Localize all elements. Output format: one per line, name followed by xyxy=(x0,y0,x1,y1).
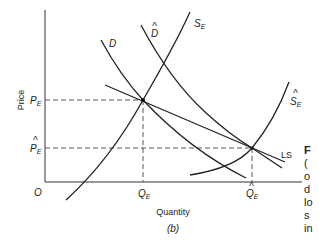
demand-label-d-hat: D xyxy=(151,28,158,39)
supply-curve-se xyxy=(66,12,190,200)
long-run-supply-ls xyxy=(105,85,285,162)
equilibrium-point-2 xyxy=(250,146,253,149)
pe-label: PE xyxy=(30,95,42,107)
economics-diagram: Price PE ^ PE O QE ^ QE Quantity (b) D ^… xyxy=(0,0,319,244)
qe-label: QE xyxy=(138,188,151,200)
supply-label-se-hat: SE xyxy=(290,96,302,108)
side-caption-fragment-4: lo xyxy=(304,196,313,209)
side-caption-fragment-0: F xyxy=(304,144,311,157)
figure-caption: (b) xyxy=(167,223,179,234)
equilibrium-point-1 xyxy=(141,98,145,102)
demand-label-d: D xyxy=(109,38,116,49)
demand-curve-d-hat xyxy=(141,25,282,168)
qe-hat-label: QE xyxy=(246,188,259,200)
long-run-supply-label: LS xyxy=(281,150,292,160)
x-axis-label: Quantity xyxy=(156,207,190,217)
side-caption-fragment-3: d xyxy=(304,183,310,196)
y-axis-label: Price xyxy=(16,90,26,111)
demand-curve-d xyxy=(101,40,246,178)
side-caption-fragment-2: o xyxy=(304,170,310,183)
origin-label: O xyxy=(34,187,42,198)
side-caption-fragment-1: ( xyxy=(304,157,308,170)
side-caption-fragment-6: in xyxy=(304,222,313,235)
supply-label-se: SE xyxy=(194,18,206,30)
pe-hat-label: PE xyxy=(30,143,42,155)
side-caption-fragment-5: s xyxy=(304,209,310,222)
supply-curve-se-hat xyxy=(190,82,289,175)
